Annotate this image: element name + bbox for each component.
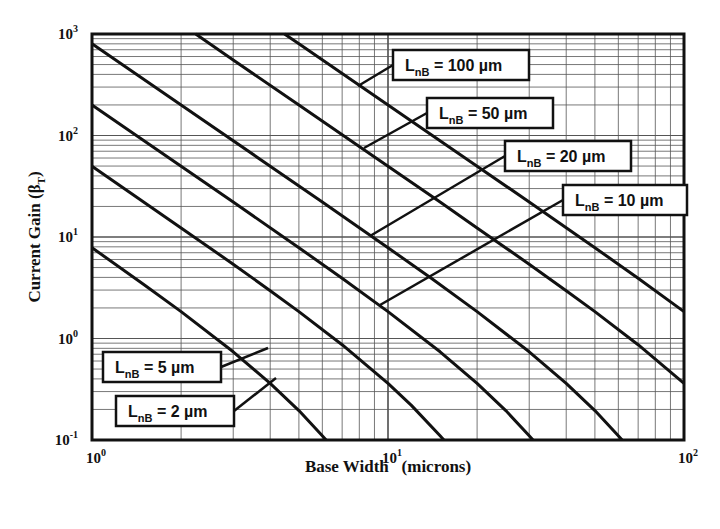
- y-axis-title: Current Gain (βT): [25, 171, 47, 302]
- y-axis-title-main: Current Gain (β: [25, 184, 44, 302]
- label-leader-line: [234, 378, 276, 411]
- label-leader-line: [364, 113, 427, 148]
- y-axis-ticks: 10310210110010-1: [55, 23, 78, 448]
- curve-labels: LnB = 100 µmLnB = 50 µmLnB = 20 µmLnB = …: [103, 50, 687, 426]
- current-gain-vs-base-width-chart: 10310210110010-1 100101102 LnB = 100 µmL…: [0, 0, 720, 529]
- label-leader-line: [221, 348, 268, 367]
- x-axis-title: Base Width (microns): [305, 457, 471, 476]
- x-tick-label: 100: [86, 447, 106, 466]
- y-tick-label: 10-1: [55, 429, 78, 448]
- curve-lnb-10um: [92, 105, 533, 440]
- y-axis-title-close: ): [25, 171, 44, 177]
- y-tick-label: 103: [58, 23, 78, 42]
- y-tick-label: 102: [58, 125, 78, 144]
- y-tick-label: 101: [58, 226, 78, 245]
- y-tick-label: 100: [58, 328, 78, 347]
- x-tick-label: 102: [678, 447, 698, 466]
